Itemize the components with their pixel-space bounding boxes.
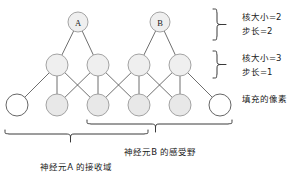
bottom-caption-group: 神经元B 的感受野 神经元A 的接收域 — [40, 147, 196, 172]
bottom-layer — [6, 94, 231, 116]
bottom-node-1 — [46, 94, 68, 116]
brace-receptive-field-a-path — [5, 130, 148, 138]
brace-lower-layer — [213, 51, 226, 78]
brace-upper-layer-path — [213, 9, 221, 40]
brace-receptive-field-a — [5, 130, 148, 142]
bottom-node-padding-left — [6, 94, 28, 116]
upper-stride-label: 步长=2 — [242, 26, 273, 36]
lower-stride-label: 步长=1 — [242, 67, 273, 77]
lower-kernel-size-label: 核大小=3 — [242, 53, 282, 63]
receptive-field-b-label: 神经元B 的感受野 — [124, 147, 196, 157]
bottom-node-padding-right — [209, 94, 231, 116]
receptive-field-a-label: 神经元A 的接收域 — [40, 162, 112, 172]
middle-node-3 — [128, 54, 150, 76]
receptive-field-diagram: A B 核大小=2 步长=2 核大小=3 步长=1 填充的像素 — [0, 0, 307, 179]
middle-node-1 — [46, 54, 68, 76]
middle-node-4 — [169, 54, 191, 76]
middle-node-2 — [87, 54, 109, 76]
brace-receptive-field-b — [87, 120, 232, 132]
padding-pixels-label: 填充的像素 — [242, 94, 287, 104]
brace-upper-layer — [213, 9, 226, 40]
top-node-a-label: A — [75, 18, 82, 28]
upper-kernel-size-label: 核大小=2 — [242, 12, 282, 22]
brace-lower-layer-path — [213, 51, 221, 78]
bottom-node-2 — [87, 94, 109, 116]
middle-layer — [46, 54, 191, 76]
bottom-node-4 — [169, 94, 191, 116]
bottom-node-3 — [128, 94, 150, 116]
annotation-text-group: 核大小=2 步长=2 核大小=3 步长=1 填充的像素 — [242, 12, 287, 104]
diagram-canvas: A B 核大小=2 步长=2 核大小=3 步长=1 填充的像素 — [0, 0, 307, 179]
brace-receptive-field-b-path — [87, 120, 232, 128]
top-node-b-label: B — [157, 18, 163, 28]
top-layer: A B — [68, 12, 170, 32]
